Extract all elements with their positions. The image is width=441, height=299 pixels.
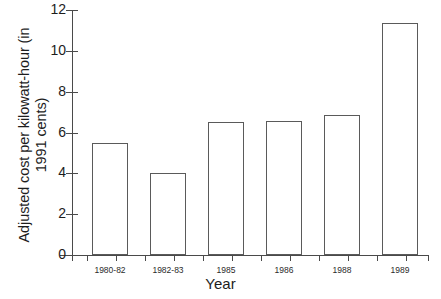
bar-1986 — [266, 121, 302, 255]
x-tick-mark-0-left — [87, 255, 88, 261]
x-tick-mark-boundary-1 — [145, 255, 146, 261]
x-tick-mark-3-right — [377, 255, 378, 261]
y-axis-title: Adjusted cost per kilowatt-hour (in 1991… — [13, 10, 53, 260]
y-axis-title-line-2: 1991 cents) — [33, 98, 50, 173]
x-tick-label-1982-83: 1982-83 — [152, 265, 183, 275]
x-tick-mark-1-right — [203, 255, 204, 261]
y-tick-label-2: 4 — [58, 164, 66, 180]
x-tick-mark-boundary-2 — [232, 255, 233, 261]
x-tick-mark-2-right — [290, 255, 291, 261]
y-tick-mark-6 — [66, 10, 78, 11]
x-tick-label-1989: 1989 — [391, 265, 410, 275]
x-tick-label-1980-82: 1980-82 — [94, 265, 125, 275]
x-tick-mark-boundary-3 — [319, 255, 320, 261]
x-tick-mark-1-left — [174, 255, 175, 261]
chart-figure: Adjusted cost per kilowatt-hour (in 1991… — [0, 0, 441, 299]
bar-1982-83 — [150, 173, 186, 255]
plot-area: 0 2 4 6 8 10 12 — [72, 10, 429, 255]
x-axis-title: Year — [0, 275, 441, 292]
y-tick-label-0: 0 — [58, 246, 66, 262]
bar-1988 — [324, 115, 360, 255]
x-tick-mark-end — [428, 255, 429, 261]
x-tick-label-1986: 1986 — [275, 265, 294, 275]
x-tick-mark-3-left — [348, 255, 349, 261]
x-tick-mark-2-left — [261, 255, 262, 261]
y-tick-label-6: 12 — [50, 1, 66, 17]
x-tick-mark-0-right — [116, 255, 117, 261]
y-tick-label-5: 10 — [50, 42, 66, 58]
x-tick-label-1988: 1988 — [333, 265, 352, 275]
y-tick-mark-4 — [66, 92, 78, 93]
y-tick-mark-5 — [66, 51, 78, 52]
y-axis-title-line-1: Adjusted cost per kilowatt-hour (in — [16, 28, 33, 243]
x-tick-mark-origin — [72, 255, 73, 261]
y-tick-label-3: 6 — [58, 124, 66, 140]
y-tick-mark-1 — [66, 214, 78, 215]
bar-1985 — [208, 122, 244, 255]
bar-1980-82 — [92, 143, 128, 255]
y-tick-label-4: 8 — [58, 83, 66, 99]
y-tick-mark-2 — [66, 173, 78, 174]
x-tick-label-1985: 1985 — [217, 265, 236, 275]
x-tick-mark-boundary-4 — [406, 255, 407, 261]
y-tick-mark-3 — [66, 133, 78, 134]
y-tick-label-1: 2 — [58, 205, 66, 221]
bar-1989 — [382, 23, 418, 255]
